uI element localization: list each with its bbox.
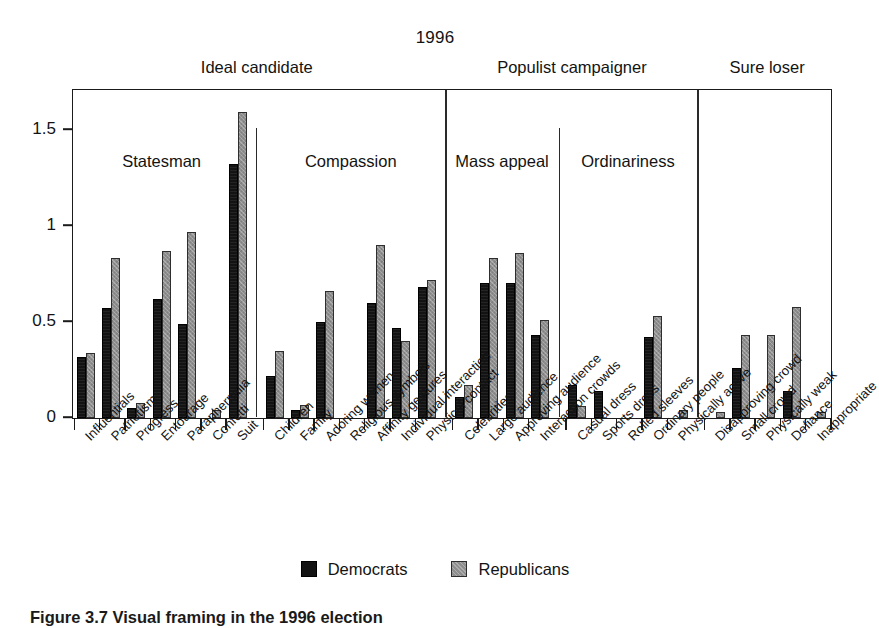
supergroup-label-sure-loser: Sure loser <box>704 58 831 77</box>
group-separator <box>559 128 560 417</box>
bar-republicans <box>515 253 524 418</box>
bar-republicans <box>187 232 196 418</box>
y-axis-tick-label: 1 <box>47 215 56 235</box>
bar-democrats <box>102 308 111 418</box>
supergroup-label-populist-campaigner: Populist campaigner <box>452 58 692 77</box>
y-axis-tick-label: 0 <box>47 407 56 427</box>
y-axis-tick-mark <box>63 224 72 226</box>
legend-swatch-republicans <box>451 561 467 577</box>
bar-republicans <box>162 251 171 418</box>
supergroup-separator <box>445 90 446 417</box>
chart-legend: DemocratsRepublicans <box>0 556 870 582</box>
y-axis: 00.511.5 <box>0 89 72 419</box>
supergroup-label-ideal-candidate: Ideal candidate <box>74 58 440 77</box>
supergroup-separator <box>697 90 698 417</box>
x-axis-tick-mark <box>74 419 75 430</box>
y-axis-tick-mark <box>63 128 72 130</box>
bar-democrats <box>316 322 325 418</box>
group-separator <box>256 128 257 417</box>
y-axis-tick-mark <box>63 320 72 322</box>
bar-republicans <box>716 412 725 418</box>
group-label-statesman: Statesman <box>73 152 250 171</box>
bar-democrats <box>77 357 86 419</box>
group-label-mass-appeal: Mass appeal <box>451 152 552 171</box>
group-label-compassion: Compassion <box>262 152 439 171</box>
y-axis-tick-mark <box>63 417 72 419</box>
bar-democrats <box>266 376 275 418</box>
bar-republicans <box>275 351 284 418</box>
bar-republicans <box>325 291 334 418</box>
x-axis: InfluentialsPatriotismProgressEntourageP… <box>72 419 832 549</box>
bar-republicans <box>86 353 95 418</box>
x-axis-tick-mark <box>263 419 264 430</box>
legend-item: Democrats <box>301 560 408 579</box>
bar-republicans <box>489 258 498 418</box>
supergroup-label-band: Ideal candidatePopulist campaignerSure l… <box>0 58 870 84</box>
figure-caption: Figure 3.7 Visual framing in the 1996 el… <box>30 608 850 627</box>
chart-year-title: 1996 <box>0 28 870 48</box>
bar-republicans <box>111 258 120 418</box>
legend-label: Republicans <box>478 560 569 579</box>
y-axis-tick-label: 0.5 <box>32 311 56 331</box>
group-label-ordinariness: Ordinariness <box>565 152 692 171</box>
legend-swatch-democrats <box>301 561 317 577</box>
y-axis-tick-label: 1.5 <box>32 119 56 139</box>
legend-label: Democrats <box>328 560 408 579</box>
legend-item: Republicans <box>451 560 569 579</box>
